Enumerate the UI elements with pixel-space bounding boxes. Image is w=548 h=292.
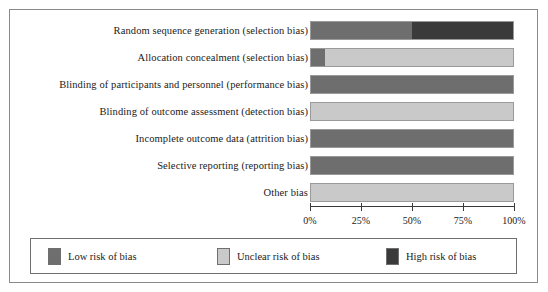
bar-segment-unclear — [311, 103, 513, 120]
axis-tick — [412, 203, 413, 211]
risk-of-bias-figure: Random sequence generation (selection bi… — [9, 9, 538, 283]
bar-segment-low — [311, 130, 513, 147]
stacked-bar-plot: Random sequence generation (selection bi… — [10, 10, 539, 232]
stacked-bar — [310, 156, 514, 175]
category-label: Incomplete outcome data (attrition bias) — [42, 128, 308, 149]
legend-swatch-icon — [217, 248, 230, 265]
bar-row: Incomplete outcome data (attrition bias) — [10, 128, 539, 149]
legend-swatch-icon — [48, 248, 61, 265]
axis-tick — [463, 203, 464, 211]
bar-row: Blinding of outcome assessment (detectio… — [10, 101, 539, 122]
bar-segment-unclear — [325, 49, 513, 66]
stacked-bar — [310, 48, 514, 67]
legend-label: Low risk of bias — [68, 251, 137, 262]
axis-tick — [310, 203, 311, 211]
bar-row: Random sequence generation (selection bi… — [10, 20, 539, 41]
axis-tick-label: 25% — [341, 215, 381, 226]
category-label: Random sequence generation (selection bi… — [42, 20, 308, 41]
legend-swatch-icon — [386, 248, 399, 265]
legend-item: High risk of bias — [386, 247, 476, 265]
axis-tick — [514, 203, 515, 211]
bar-segment-low — [311, 22, 412, 39]
bar-segment-high — [412, 22, 513, 39]
axis-tick-label: 100% — [494, 215, 534, 226]
stacked-bar — [310, 129, 514, 148]
stacked-bar — [310, 21, 514, 40]
axis-tick-label: 0% — [290, 215, 330, 226]
category-label: Selective reporting (reporting bias) — [42, 155, 308, 176]
bar-segment-unclear — [311, 184, 513, 201]
bar-row: Blinding of participants and personnel (… — [10, 74, 539, 95]
bar-segment-low — [311, 49, 325, 66]
legend-label: High risk of bias — [406, 251, 476, 262]
bar-row: Other bias — [10, 182, 539, 203]
stacked-bar — [310, 183, 514, 202]
category-label: Blinding of participants and personnel (… — [42, 74, 308, 95]
legend-item: Low risk of bias — [48, 247, 137, 265]
axis-tick — [361, 203, 362, 211]
bar-row: Selective reporting (reporting bias) — [10, 155, 539, 176]
axis-tick-label: 50% — [392, 215, 432, 226]
stacked-bar — [310, 102, 514, 121]
axis-tick-label: 75% — [443, 215, 483, 226]
x-axis: 0%25%50%75%100% — [310, 206, 514, 232]
bar-segment-low — [311, 76, 513, 93]
bar-row: Allocation concealment (selection bias) — [10, 47, 539, 68]
category-label: Allocation concealment (selection bias) — [42, 47, 308, 68]
legend-label: Unclear risk of bias — [237, 251, 320, 262]
category-label: Other bias — [42, 182, 308, 203]
legend-item: Unclear risk of bias — [217, 247, 320, 265]
bar-segment-low — [311, 157, 513, 174]
legend: Low risk of biasUnclear risk of biasHigh… — [30, 238, 517, 274]
category-label: Blinding of outcome assessment (detectio… — [42, 101, 308, 122]
stacked-bar — [310, 75, 514, 94]
